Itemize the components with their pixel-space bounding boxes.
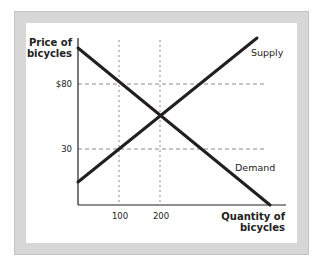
x-tick-200: 200 (153, 211, 169, 221)
supply-demand-chart: Price of bicycles $80 30 100 200 Quantit… (0, 0, 319, 267)
x-axis-title-line2: bicycles (240, 222, 285, 233)
supply-curve (78, 38, 257, 182)
y-axis-title-line2: bicycles (27, 48, 72, 59)
y-axis-title-line1: Price of (29, 37, 73, 48)
y-tick-30: 30 (61, 144, 72, 154)
supply-label: Supply (251, 47, 284, 58)
y-tick-80: $80 (56, 79, 72, 89)
x-tick-100: 100 (112, 211, 128, 221)
demand-curve (78, 48, 270, 205)
x-axis-title-line1: Quantity of (221, 211, 285, 222)
demand-label: Demand (235, 162, 275, 173)
